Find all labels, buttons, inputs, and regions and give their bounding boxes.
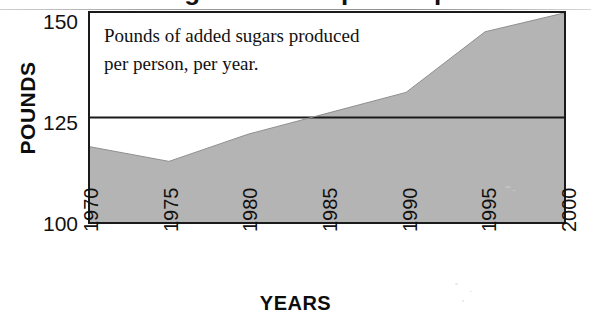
scan-artifact-speckle (455, 283, 458, 285)
chart-caption: Pounds of added sugars produced per pers… (104, 22, 434, 77)
scan-artifact-speckle (505, 186, 511, 188)
y-axis-title: POUNDS (16, 48, 40, 168)
y-axis-tick-125: 125 (0, 112, 78, 133)
caption-line-1: Pounds of added sugars produced (104, 22, 434, 50)
x-axis-tick-1990: 1990 (399, 172, 422, 232)
x-axis-tick-1975: 1975 (160, 172, 183, 232)
x-axis-tick-1970: 1970 (80, 172, 103, 232)
x-axis-tick-1995: 1995 (478, 172, 501, 232)
caption-line-2: per person, per year. (104, 50, 434, 78)
sugar-consumption-area-chart: POUNDS 150 125 100 1970 1975 1980 1985 1… (0, 0, 591, 321)
scan-artifact-speckle (462, 300, 464, 302)
y-axis-tick-150: 150 (0, 11, 78, 32)
x-axis-tick-1985: 1985 (319, 172, 342, 232)
x-axis-tick-2000: 2000 (558, 172, 581, 232)
scan-artifact-speckle (470, 291, 472, 292)
x-axis-tick-1980: 1980 (239, 172, 262, 232)
x-axis-title: YEARS (0, 292, 591, 315)
y-axis-tick-100: 100 (0, 213, 78, 234)
scan-artifact-speckle (512, 190, 516, 191)
